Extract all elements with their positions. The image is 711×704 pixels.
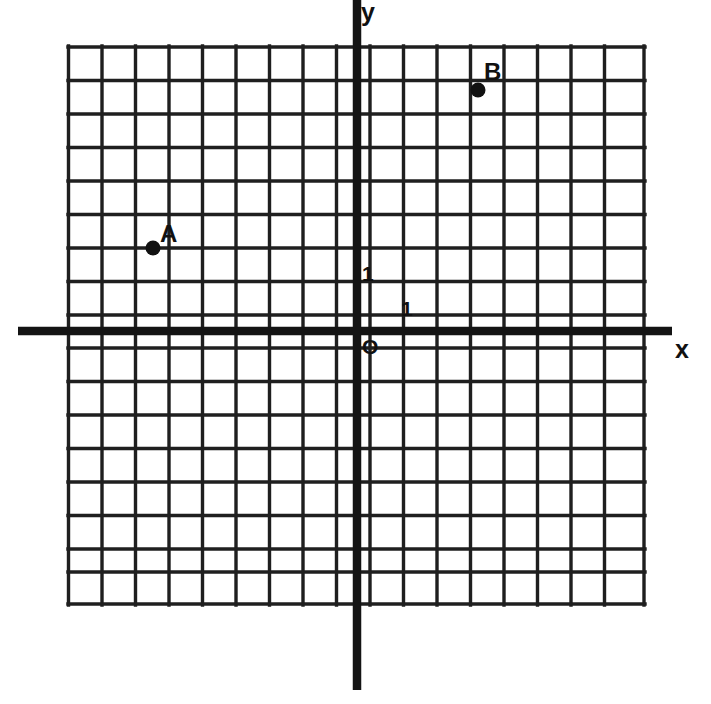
origin-label: O: [362, 336, 378, 357]
point-b-label: B: [484, 60, 501, 84]
coordinate-plane-svg: [0, 0, 711, 704]
y-axis-label: y: [361, 0, 375, 25]
point-a-marker: [146, 241, 161, 256]
coordinate-plane-figure: y x O 1 1 A B: [0, 0, 711, 704]
x-axis-label: x: [675, 337, 689, 362]
x-axis-unit-label: 1: [401, 298, 413, 319]
point-a-label: A: [160, 222, 177, 246]
plotted-points: [146, 83, 486, 256]
axis-lines: [18, 0, 672, 690]
y-axis-unit-label: 1: [362, 263, 374, 284]
